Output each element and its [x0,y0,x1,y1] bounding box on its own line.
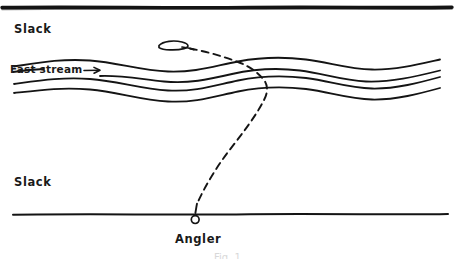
angler-position-circle [191,216,199,224]
dashed-fishing-line [190,49,267,214]
far-bank-line [2,7,452,9]
label-slack-upper: Slack [14,22,51,36]
diagram-canvas [0,0,455,259]
fishing-diagram: Slack Fast stream Slack Angler Fig. 1 [0,0,455,259]
cut-off-caption: Fig. 1 [0,251,455,259]
label-fast-stream: Fast stream [10,63,82,75]
flow-direction-arrow [84,67,100,73]
near-bank-line [13,214,448,215]
fly-lure-oval [159,41,194,50]
label-angler: Angler [175,232,221,246]
label-slack-lower: Slack [14,175,51,189]
